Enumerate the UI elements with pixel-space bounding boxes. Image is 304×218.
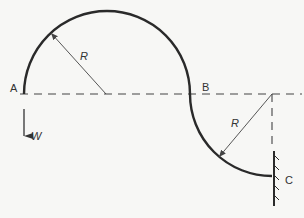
- hook-diagram: A B C R R W: [0, 0, 304, 218]
- lower-radius-arrow: [219, 94, 272, 157]
- label-radius-lower: R: [231, 117, 239, 129]
- label-radius-upper: R: [80, 50, 88, 62]
- fixed-wall-support: [274, 151, 279, 206]
- label-load-w: W: [31, 130, 43, 142]
- upper-semicircle-arc: [24, 11, 190, 94]
- label-a: A: [10, 82, 18, 94]
- upper-radius-arrow: [51, 33, 106, 94]
- label-c: C: [285, 174, 293, 186]
- lower-quarter-arc: [190, 94, 272, 176]
- label-b: B: [202, 81, 209, 93]
